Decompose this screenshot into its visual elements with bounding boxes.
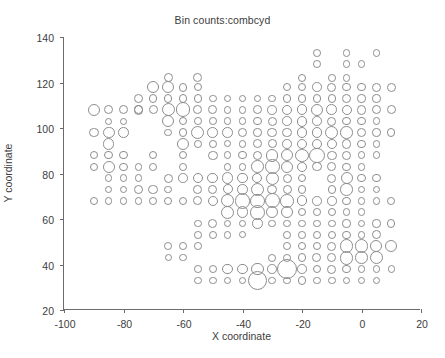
scatter-bubble xyxy=(298,231,306,239)
scatter-bubble xyxy=(357,128,366,137)
scatter-bubble xyxy=(147,81,159,93)
scatter-bubble xyxy=(313,231,321,239)
scatter-bubble xyxy=(194,94,202,102)
scatter-bubble xyxy=(268,95,276,103)
y-tick-label: 40 xyxy=(42,260,54,272)
scatter-bubble xyxy=(224,277,232,285)
scatter-bubble xyxy=(312,127,323,138)
scatter-bubble xyxy=(342,197,350,205)
scatter-bubble xyxy=(313,94,321,102)
scatter-bubble xyxy=(372,94,380,102)
scatter-bubble xyxy=(148,185,158,195)
scatter-bubble xyxy=(283,220,291,228)
scatter-bubble xyxy=(387,219,395,227)
scatter-bubble xyxy=(282,116,292,126)
scatter-bubble xyxy=(358,231,366,239)
scatter-bubble xyxy=(281,206,293,218)
scatter-bubble xyxy=(120,118,127,125)
scatter-bubble xyxy=(239,277,247,285)
scatter-bubble xyxy=(224,220,232,228)
scatter-bubble xyxy=(149,151,157,159)
scatter-bubble xyxy=(118,127,129,138)
plot-area: 20406080100120140 -100-80-60-40-20020 xyxy=(63,37,420,310)
scatter-bubble xyxy=(373,49,381,57)
scatter-bubble xyxy=(239,231,246,238)
scatter-bubble xyxy=(194,220,202,228)
scatter-bubble xyxy=(327,253,336,262)
scatter-bubble xyxy=(253,117,261,125)
x-tick-label: -60 xyxy=(176,318,191,330)
scatter-bubble xyxy=(327,117,336,126)
scatter-bubble xyxy=(373,265,381,273)
scatter-bubble xyxy=(340,183,352,195)
scatter-bubble xyxy=(209,140,217,148)
scatter-bubble xyxy=(253,139,262,148)
scatter-bubble xyxy=(176,102,191,117)
scatter-bubble xyxy=(120,197,128,205)
x-tick: 20 xyxy=(421,309,422,313)
scatter-bubble xyxy=(164,242,172,250)
scatter-bubble xyxy=(357,83,365,91)
scatter-bubble xyxy=(179,117,187,125)
scatter-bubble xyxy=(179,151,187,159)
scatter-bubble xyxy=(162,81,174,93)
scatter-bubble xyxy=(267,105,277,115)
x-tick: -100 xyxy=(64,309,65,313)
scatter-bubble xyxy=(208,105,217,114)
scatter-bubble xyxy=(221,206,234,219)
scatter-bubble xyxy=(119,163,127,171)
scatter-bubble xyxy=(357,140,365,148)
scatter-bubble xyxy=(90,151,98,159)
scatter-bubble xyxy=(342,151,351,160)
scatter-bubble xyxy=(313,49,321,57)
scatter-bubble xyxy=(104,105,113,114)
scatter-bubble xyxy=(209,231,217,239)
scatter-bubble xyxy=(179,197,187,205)
scatter-bubble xyxy=(372,219,380,227)
scatter-bubble xyxy=(194,242,202,250)
scatter-bubble xyxy=(343,49,351,57)
scatter-bubble xyxy=(298,94,306,102)
scatter-bubble xyxy=(224,140,231,147)
scatter-bubble xyxy=(283,231,291,239)
scatter-bubble xyxy=(149,105,158,114)
scatter-bubble xyxy=(179,94,187,102)
scatter-bubble xyxy=(194,265,202,273)
scatter-bubble xyxy=(253,128,261,136)
scatter-bubble xyxy=(191,126,204,139)
scatter-bubble xyxy=(268,139,277,148)
scatter-bubble xyxy=(239,106,247,114)
scatter-bubble xyxy=(164,94,172,102)
y-tick-label: 120 xyxy=(36,78,54,90)
scatter-bubble xyxy=(343,74,351,82)
scatter-bubble xyxy=(208,196,218,206)
scatter-bubble xyxy=(328,74,336,82)
scatter-bubble xyxy=(267,264,277,274)
scatter-bubble xyxy=(149,94,157,102)
scatter-bubble xyxy=(311,104,323,116)
scatter-bubble xyxy=(208,151,218,161)
scatter-bubble xyxy=(358,197,366,205)
scatter-bubble xyxy=(342,163,350,171)
x-tick: 0 xyxy=(362,309,363,313)
scatter-bubble xyxy=(312,82,322,92)
scatter-bubble xyxy=(298,220,306,228)
scatter-bubble xyxy=(373,140,381,148)
scatter-bubble xyxy=(327,162,336,171)
scatter-bubble xyxy=(194,83,202,91)
scatter-bubble xyxy=(358,208,366,216)
scatter-bubble xyxy=(281,161,293,173)
y-tick-label: 80 xyxy=(42,169,54,181)
y-tick-label: 140 xyxy=(36,32,54,44)
scatter-bubble xyxy=(312,162,322,172)
scatter-bubble xyxy=(254,95,262,103)
scatter-bubble xyxy=(313,242,321,250)
scatter-bubble xyxy=(179,163,187,171)
scatter-bubble xyxy=(237,206,249,218)
scatter-bubble xyxy=(224,163,232,171)
scatter-bubble xyxy=(327,174,336,183)
scatter-bubble xyxy=(165,254,172,261)
scatter-bubble xyxy=(373,151,381,159)
scatter-bubble xyxy=(283,83,291,91)
y-tick-label: 60 xyxy=(42,214,54,226)
